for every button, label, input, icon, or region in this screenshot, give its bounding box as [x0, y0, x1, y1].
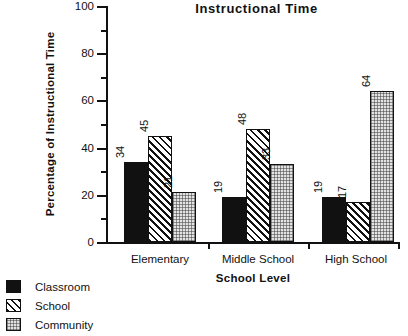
bar-value-label: 33: [261, 148, 272, 160]
y-tick-40: [97, 148, 106, 150]
y-tick-label-40: 40: [81, 142, 94, 154]
legend: Classroom School Community: [6, 277, 166, 334]
x-category-label-elementary: Elementary: [131, 253, 189, 265]
y-tick-10: [101, 218, 106, 220]
x-axis-end-tick: [398, 242, 400, 249]
y-tick-label-60: 60: [81, 94, 94, 106]
legend-label-community: Community: [35, 319, 93, 331]
bar-value-label: 21: [163, 176, 174, 188]
y-tick-20: [97, 195, 106, 197]
y-axis-line: [106, 6, 108, 243]
bar-middle-school-classroom[interactable]: 19: [222, 197, 246, 242]
bar-high-school-classroom[interactable]: 19: [322, 197, 346, 242]
x-group-separator-2: [308, 242, 310, 249]
x-axis-line: [106, 242, 400, 244]
y-tick-30: [101, 171, 106, 173]
y-tick-80: [97, 53, 106, 55]
y-tick-0: [97, 242, 106, 244]
y-tick-60: [97, 100, 106, 102]
y-axis-label: Percentage of Instructional Time: [44, 4, 56, 244]
bar-elementary-school[interactable]: 45: [148, 136, 172, 242]
x-group-separator-1: [208, 242, 210, 249]
bar-value-label: 34: [115, 146, 126, 158]
legend-label-school: School: [35, 300, 70, 312]
y-tick-label-0: 0: [88, 236, 94, 248]
y-tick-label-100: 100: [75, 0, 94, 12]
legend-item-classroom[interactable]: Classroom: [6, 277, 166, 296]
x-category-label-middle-school: Middle School: [222, 253, 294, 265]
legend-item-community[interactable]: Community: [6, 315, 166, 334]
bar-high-school-community[interactable]: 64: [370, 91, 394, 242]
y-tick-label-80: 80: [81, 47, 94, 59]
bar-elementary-classroom[interactable]: 34: [124, 162, 148, 242]
legend-label-classroom: Classroom: [35, 281, 90, 293]
bar-value-label: 45: [139, 120, 150, 132]
bar-value-label: 17: [337, 186, 348, 198]
bar-value-label: 48: [237, 112, 248, 124]
legend-swatch-community-icon: [6, 318, 21, 331]
y-tick-100: [97, 6, 106, 8]
plot-area: 100 80 60 40 20 0 34 45 21 19 48 33 19: [106, 6, 400, 242]
legend-swatch-school-icon: [6, 299, 21, 312]
bar-middle-school-school[interactable]: 48: [246, 129, 270, 242]
bar-value-label: 64: [361, 75, 372, 87]
y-tick-90: [101, 30, 106, 32]
legend-item-school[interactable]: School: [6, 296, 166, 315]
legend-swatch-classroom-icon: [6, 280, 21, 293]
y-tick-50: [101, 124, 106, 126]
bar-high-school-school[interactable]: 17: [346, 202, 370, 242]
bar-value-label: 19: [313, 181, 324, 193]
y-tick-70: [101, 77, 106, 79]
bar-middle-school-community[interactable]: 33: [270, 164, 294, 242]
bar-elementary-community[interactable]: 21: [172, 192, 196, 242]
x-category-label-high-school: High School: [325, 253, 387, 265]
bar-value-label: 19: [213, 181, 224, 193]
chart-page: Instructional Time Percentage of Instruc…: [0, 0, 408, 336]
y-tick-label-20: 20: [81, 189, 94, 201]
